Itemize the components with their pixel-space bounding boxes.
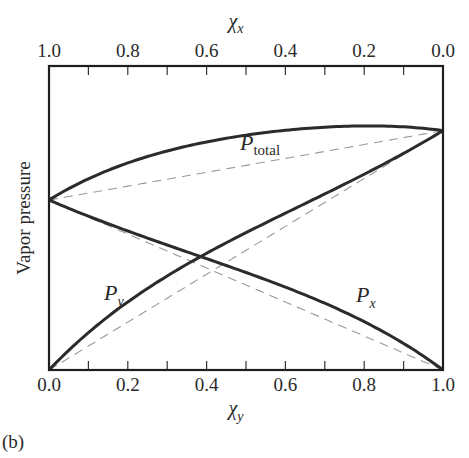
tick-label: 0.2 xyxy=(352,40,376,61)
x-axis-bottom-title: χy xyxy=(226,397,244,424)
x-axis-top-ticks: 1.00.80.60.40.20.0 xyxy=(37,40,455,61)
tick-label: 0.6 xyxy=(274,374,298,395)
tick-label: 0.0 xyxy=(37,374,61,395)
plot-curves xyxy=(49,66,443,370)
tick-label: 0.4 xyxy=(274,40,298,61)
chart: χx 1.00.80.60.40.20.0 0.00.20.40.60.81.0… xyxy=(0,0,469,458)
tick-label: 1.0 xyxy=(431,374,455,395)
tick-label: 0.0 xyxy=(431,40,455,61)
tick-label: 0.6 xyxy=(195,40,219,61)
tick-label: 0.4 xyxy=(195,374,219,395)
x-axis-top-title: χx xyxy=(226,10,244,36)
plot-frame xyxy=(49,66,443,370)
panel-label: (b) xyxy=(2,431,24,453)
tick-label: 0.8 xyxy=(352,374,376,395)
tick-label: 1.0 xyxy=(37,40,61,61)
tick-label: 0.2 xyxy=(116,374,140,395)
ideal-p-y-dashed xyxy=(49,131,443,370)
label-p-y: Py xyxy=(103,280,124,309)
label-p-x: Px xyxy=(355,282,376,311)
tick-label: 0.8 xyxy=(116,40,140,61)
y-axis-label: Vapor pressure xyxy=(13,161,34,274)
x-axis-bottom-ticks: 0.00.20.40.60.81.0 xyxy=(37,374,455,395)
